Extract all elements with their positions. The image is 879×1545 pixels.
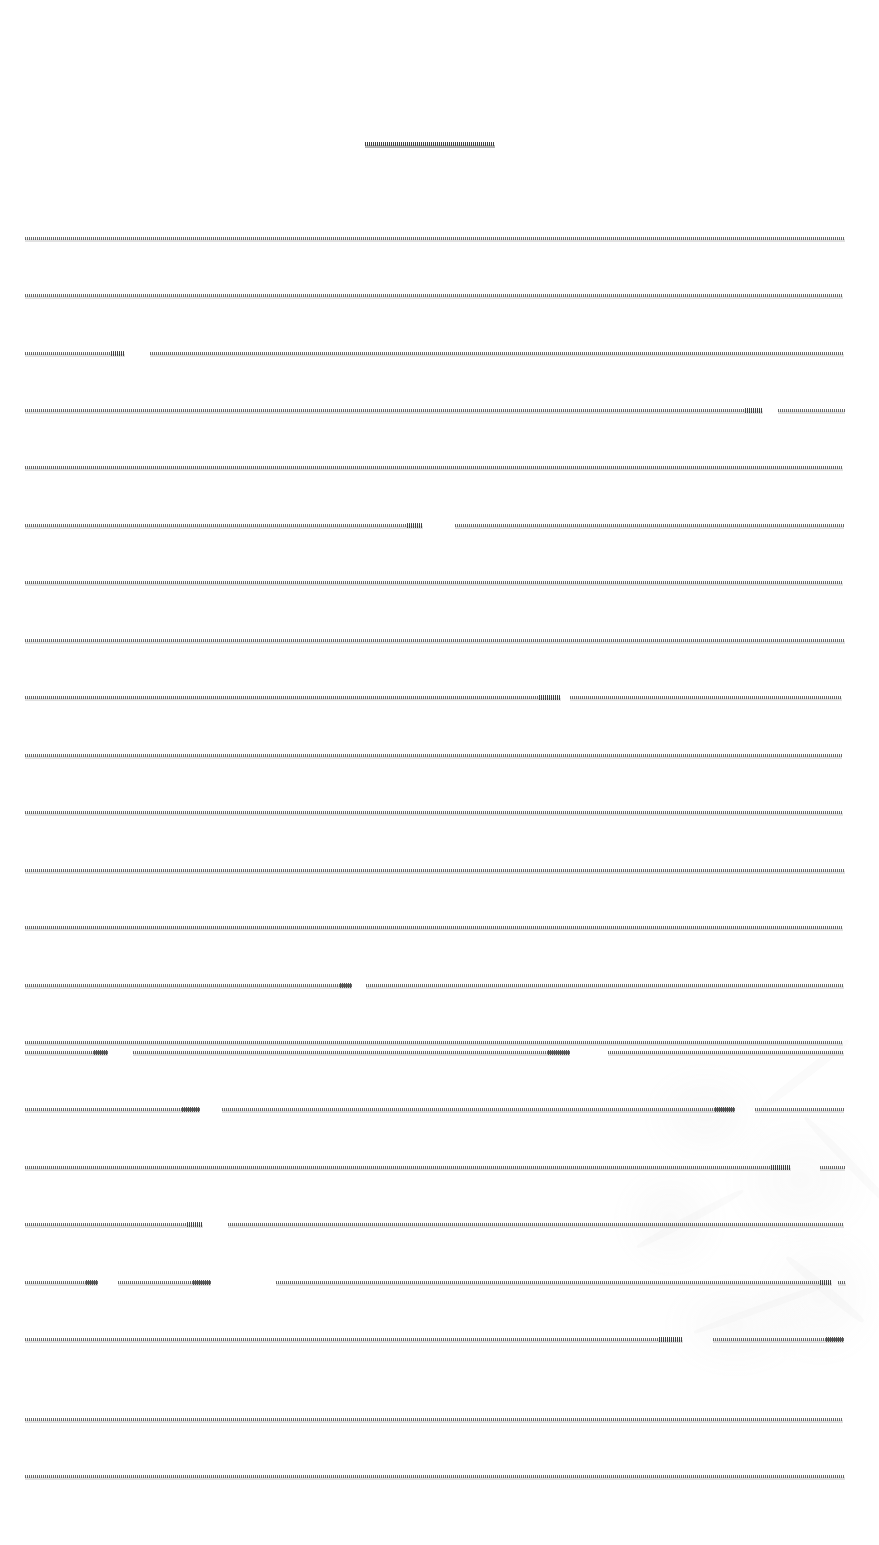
text-run	[118, 1281, 211, 1284]
text-run	[25, 754, 842, 757]
body-text-block: illegible justified body text	[0, 0, 879, 1545]
text-run	[25, 1475, 845, 1478]
text-line	[0, 290, 879, 302]
text-run	[133, 1051, 570, 1054]
text-line	[0, 980, 879, 992]
text-run	[25, 639, 845, 642]
text-run	[25, 926, 843, 929]
text-line	[0, 692, 879, 704]
text-run	[25, 237, 845, 240]
text-run	[820, 1166, 845, 1169]
text-run	[25, 352, 125, 355]
text-run	[25, 466, 843, 469]
text-run	[366, 984, 844, 987]
text-line	[0, 922, 879, 934]
text-line	[0, 1277, 879, 1289]
text-run	[838, 1281, 846, 1284]
text-line	[0, 1334, 879, 1346]
text-line	[0, 750, 879, 762]
text-run	[755, 1108, 844, 1111]
text-run	[25, 1281, 98, 1284]
text-run	[25, 409, 763, 412]
text-run	[608, 1051, 844, 1054]
text-run	[25, 1041, 843, 1044]
text-run	[25, 524, 423, 527]
text-run	[25, 581, 843, 584]
text-run	[25, 811, 843, 814]
text-line	[0, 520, 879, 532]
text-line	[0, 807, 879, 819]
text-run	[25, 294, 843, 297]
text-line	[0, 233, 879, 245]
text-line	[0, 405, 879, 417]
text-run	[150, 352, 844, 355]
text-line	[0, 348, 879, 360]
text-run	[455, 524, 844, 527]
text-run	[276, 1281, 832, 1284]
text-run	[25, 1051, 108, 1054]
text-line	[0, 1162, 879, 1174]
text-line	[0, 635, 879, 647]
text-run	[25, 869, 845, 872]
text-line	[0, 1414, 879, 1426]
text-run	[222, 1108, 735, 1111]
text-line	[0, 1104, 879, 1116]
document-page: illegible centered title streak illegibl…	[0, 0, 879, 1545]
text-run	[778, 409, 845, 412]
text-run	[570, 696, 842, 699]
text-run	[25, 984, 352, 987]
text-line	[0, 1047, 879, 1059]
text-run	[25, 1338, 683, 1341]
text-line	[0, 577, 879, 589]
text-run	[713, 1338, 844, 1341]
text-run	[25, 1223, 203, 1226]
text-line	[0, 1219, 879, 1231]
text-run	[25, 696, 561, 699]
text-run	[25, 1166, 791, 1169]
text-line	[0, 865, 879, 877]
text-line	[0, 462, 879, 474]
text-run	[25, 1108, 200, 1111]
text-run	[228, 1223, 844, 1226]
text-line	[0, 1471, 879, 1483]
text-run	[25, 1418, 843, 1421]
body-text-content: illegible justified body text	[0, 0, 1, 1]
